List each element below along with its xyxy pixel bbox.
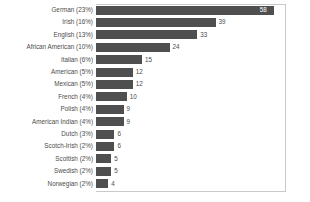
bar-track: 9 [96,103,310,115]
category-label: African American (10%) [0,44,96,50]
category-label: American (5%) [0,69,96,75]
bar-row: Irish (16%)39 [0,16,310,28]
value-label: 9 [124,106,131,112]
category-label: Dutch (3%) [0,131,96,137]
bar-row: English (13%)33 [0,29,310,41]
bar-row: Italian (6%)15 [0,54,310,66]
bar [96,130,114,139]
value-label: 9 [124,119,131,125]
bar-row: Mexican (5%)12 [0,78,310,90]
category-label: French (4%) [0,94,96,100]
bar-track: 12 [96,78,310,90]
category-label: Italian (6%) [0,57,96,63]
bar [96,179,108,188]
bar [96,80,133,89]
bar [96,30,197,39]
category-label: Scotch-Irish (2%) [0,143,96,149]
bar-row: Scotch-Irish (2%)6 [0,140,310,152]
category-label: Scottish (2%) [0,156,96,162]
bar [96,43,170,52]
bar-chart: German (23%)58Irish (16%)39English (13%)… [0,0,310,202]
bar-rows-container: German (23%)58Irish (16%)39English (13%)… [0,4,310,190]
value-label: 58 [260,7,267,13]
bar [96,105,124,114]
bar-row: French (4%)10 [0,91,310,103]
value-label: 24 [170,44,180,50]
bar [96,154,111,163]
category-label: Irish (16%) [0,19,96,25]
bar-track: 4 [96,177,310,189]
bar-track: 12 [96,66,310,78]
value-label: 6 [114,131,121,137]
value-label: 10 [127,94,137,100]
bar-track: 15 [96,54,310,66]
bar-row: American Indian (4%)9 [0,116,310,128]
category-label: American Indian (4%) [0,119,96,125]
bar [96,117,124,126]
value-label: 39 [216,19,226,25]
bar [96,142,114,151]
category-label: Norwegian (2%) [0,181,96,187]
category-label: Polish (4%) [0,106,96,112]
value-label: 12 [133,69,143,75]
bar-track: 5 [96,153,310,165]
value-label: 15 [142,57,152,63]
value-label: 6 [114,143,121,149]
bar-track: 58 [96,4,310,16]
value-label: 12 [133,81,143,87]
bar-track: 6 [96,140,310,152]
bar [96,92,127,101]
value-label: 33 [197,32,207,38]
bar [96,68,133,77]
bar-track: 5 [96,165,310,177]
bar-row: Polish (4%)9 [0,103,310,115]
category-label: German (23%) [0,7,96,13]
bar [96,167,111,176]
bar-track: 39 [96,16,310,28]
bar-row: African American (10%)24 [0,41,310,53]
bar-row: Scottish (2%)5 [0,153,310,165]
value-label: 4 [108,181,115,187]
bar-row: German (23%)58 [0,4,310,16]
category-label: Mexican (5%) [0,81,96,87]
bar-track: 33 [96,29,310,41]
bar-track: 9 [96,116,310,128]
bar-row: American (5%)12 [0,66,310,78]
bar [96,6,274,15]
category-label: Swedish (2%) [0,168,96,174]
value-label: 5 [111,168,118,174]
bar [96,55,142,64]
bar-track: 24 [96,41,310,53]
bar [96,18,216,27]
bar-track: 6 [96,128,310,140]
value-label: 5 [111,156,118,162]
bar-row: Dutch (3%)6 [0,128,310,140]
category-label: English (13%) [0,32,96,38]
bar-row: Swedish (2%)5 [0,165,310,177]
bar-track: 10 [96,91,310,103]
bar-row: Norwegian (2%)4 [0,177,310,189]
